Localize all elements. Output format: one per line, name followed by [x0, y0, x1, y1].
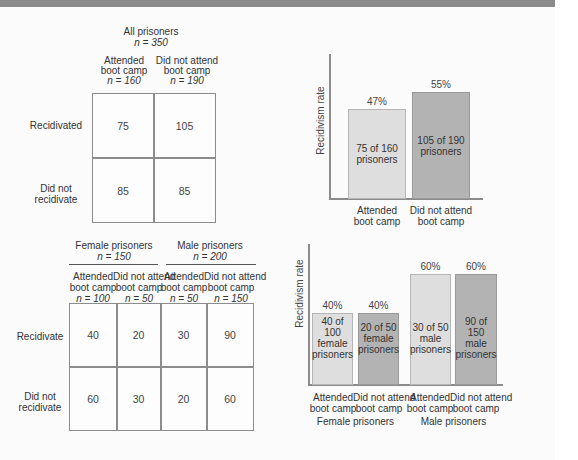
bar-text-line2: female — [312, 338, 353, 349]
bar-text-line2: male — [455, 338, 496, 349]
x-label-line1: Did not attend — [406, 205, 476, 216]
bar-text-line1: 40 of 100 — [312, 316, 353, 338]
bottom-group-label-female: Female prisoners — [312, 416, 399, 427]
row-label-line2: recidivate — [25, 194, 87, 205]
top-col-header-1-n: n = 160 — [95, 75, 153, 86]
bottom-bar-female-not-attended: 20 of 50 female prisoners — [358, 313, 399, 385]
col-line2: boot camp — [68, 282, 118, 293]
col-line1: Attended — [160, 271, 208, 282]
top-chart-y-axis — [329, 54, 331, 199]
bottom-cell-r2c1: 60 — [70, 368, 116, 430]
x-label-line2: boot camp — [450, 403, 502, 414]
col-line1: Did not attend — [204, 271, 258, 282]
bar-text-line1: 30 of 50 — [410, 322, 451, 333]
row-label-line2: recidivate — [14, 402, 66, 413]
top-table-title: All prisoners — [110, 26, 192, 37]
bottom-bar-male-attended: 30 of 50 male prisoners — [410, 274, 451, 385]
female-group-title: Female prisoners — [69, 240, 159, 251]
bottom-cell-r2c2: 30 — [117, 368, 160, 430]
bottom-row-label-did-not-recidivate: Did not recidivate — [14, 391, 66, 413]
bar-text-line3: prisoners — [312, 349, 353, 360]
bottom-x-label-2: Did not attend boot camp — [353, 392, 405, 414]
col-line1: Attended — [68, 271, 118, 282]
bar-text-line3: prisoners — [358, 344, 399, 355]
top-cell-recid-not-attended: 105 — [154, 94, 215, 157]
bottom-bar-3-value: 60% — [410, 261, 451, 272]
top-x-label-1: Attended boot camp — [345, 205, 409, 227]
top-row-label-did-not-recidivate: Did not recidivate — [25, 183, 87, 205]
bottom-cell-r2c3: 20 — [161, 368, 206, 430]
top-col-header-2-n: n = 190 — [152, 75, 222, 86]
bottom-chart-y-label: Recidivism rate — [294, 254, 305, 334]
x-label-line2: boot camp — [353, 403, 405, 414]
col-line2: boot camp — [113, 282, 165, 293]
bar-text-line1: 105 of 190 — [417, 135, 464, 146]
x-label-line1: Did not attend — [353, 392, 405, 403]
top-chart-y-label: Recidivism rate — [315, 81, 326, 161]
bottom-col-header-2: Did not attend boot camp n = 50 — [113, 271, 165, 304]
male-group-rule — [166, 264, 256, 265]
col-line2: boot camp — [160, 282, 208, 293]
bottom-x-label-3: Attended boot camp — [405, 392, 455, 414]
bottom-cell-r2c4: 60 — [207, 368, 253, 430]
x-label-line2: boot camp — [345, 216, 409, 227]
top-bar-attended: 75 of 160 prisoners — [348, 109, 406, 199]
female-group-n: n = 150 — [69, 251, 159, 262]
top-bar-not-attended: 105 of 190 prisoners — [412, 92, 470, 199]
top-table-n: n = 350 — [110, 37, 192, 48]
x-label-line1: Did not attend — [450, 392, 502, 403]
row-label-line1: Recidivate — [14, 331, 66, 342]
row-label-line1: Did not — [14, 391, 66, 402]
col-line2: boot camp — [204, 282, 258, 293]
x-label-line2: boot camp — [308, 403, 358, 414]
bar-text-line2: prisoners — [417, 146, 464, 157]
top-cell-recid-attended: 75 — [93, 94, 153, 157]
bar-text-line2: female — [358, 333, 399, 344]
bottom-cell-r1c1: 40 — [70, 304, 116, 366]
bottom-cell-r1c4: 90 — [207, 304, 253, 366]
bar-text-line1: 20 of 50 — [358, 322, 399, 333]
bottom-chart-y-axis — [308, 244, 310, 386]
top-bar-2-value: 55% — [412, 79, 470, 90]
bar-text-line2: prisoners — [356, 154, 398, 165]
bottom-cell-r1c3: 30 — [161, 304, 206, 366]
bar-text-line2: male — [410, 333, 451, 344]
bar-text-line1: 90 of 150 — [455, 316, 496, 338]
bottom-row-label-recidivate: Recidivate — [14, 331, 66, 342]
top-cell-norecid-attended: 85 — [93, 159, 153, 222]
bottom-col-header-1: Attended boot camp n = 100 — [68, 271, 118, 304]
x-label-line1: Attended — [345, 205, 409, 216]
top-bar-1-value: 47% — [348, 96, 406, 107]
col-line1: Did not attend — [113, 271, 165, 282]
bottom-col-header-3: Attended boot camp n = 50 — [160, 271, 208, 304]
male-group-n: n = 200 — [165, 251, 255, 262]
bottom-x-label-1: Attended boot camp — [308, 392, 358, 414]
bar-text-line3: prisoners — [455, 349, 496, 360]
top-row-label-recidivated: Recidivated — [25, 120, 87, 131]
bottom-group-label-male: Male prisoners — [410, 416, 497, 427]
bar-text-line3: prisoners — [410, 344, 451, 355]
x-label-line1: Attended — [308, 392, 358, 403]
top-x-label-2: Did not attend boot camp — [406, 205, 476, 227]
female-group-rule — [69, 264, 158, 265]
x-label-line2: boot camp — [405, 403, 455, 414]
bottom-cell-r1c2: 20 — [117, 304, 160, 366]
male-group-title: Male prisoners — [165, 240, 255, 251]
x-label-line2: boot camp — [406, 216, 476, 227]
bottom-bar-4-value: 60% — [455, 261, 497, 272]
bottom-bar-2-value: 40% — [358, 300, 399, 311]
bottom-bar-male-not-attended: 90 of 150 male prisoners — [455, 274, 497, 385]
bottom-bar-female-attended: 40 of 100 female prisoners — [312, 313, 353, 385]
x-label-line1: Attended — [405, 392, 455, 403]
bottom-bar-1-value: 40% — [312, 300, 353, 311]
row-label-line1: Recidivated — [25, 120, 87, 131]
bottom-x-label-4: Did not attend boot camp — [450, 392, 502, 414]
row-label-line1: Did not — [25, 183, 87, 194]
bottom-col-header-4: Did not attend boot camp n = 150 — [204, 271, 258, 304]
top-cell-norecid-not-attended: 85 — [154, 159, 215, 222]
top-bar — [0, 0, 555, 7]
bar-text-line1: 75 of 160 — [356, 143, 398, 154]
